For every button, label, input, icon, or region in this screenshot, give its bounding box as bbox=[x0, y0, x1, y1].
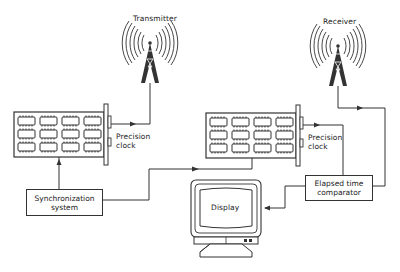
precision-clock-tx-label-line1: Precision bbox=[116, 132, 150, 141]
transmitter-label: Transmitter bbox=[133, 14, 177, 23]
elapsed-time-comparator-box: Elapsed time comparator bbox=[305, 175, 373, 201]
display-monitor-icon bbox=[191, 180, 261, 257]
edge-receiver-to-comparator bbox=[338, 86, 385, 186]
synchronization-system-box: Synchronization system bbox=[26, 189, 103, 216]
receiver-label: Receiver bbox=[323, 17, 356, 26]
comparator-label-line1: Elapsed time bbox=[315, 179, 364, 188]
sync-label-line2: system bbox=[34, 203, 94, 212]
precision-clock-tx-label: Precision clock bbox=[116, 132, 150, 150]
precision-clock-tx-label-line2: clock bbox=[116, 141, 150, 150]
precision-clock-rx-label-line1: Precision bbox=[308, 133, 342, 142]
precision-clock-rx-icon bbox=[206, 105, 303, 166]
edge-comparator-to-display bbox=[264, 186, 305, 211]
precision-clock-rx-label: Precision clock bbox=[308, 133, 342, 151]
edge-sync-to-clock-tx bbox=[57, 157, 62, 189]
transmitter-tower-icon bbox=[122, 21, 178, 83]
display-label: Display bbox=[211, 203, 239, 212]
receiver-tower-icon bbox=[310, 24, 366, 86]
precision-clock-tx-icon bbox=[14, 104, 111, 165]
sync-label-line1: Synchronization bbox=[34, 194, 94, 203]
comparator-label-line2: comparator bbox=[315, 188, 364, 197]
edge-clock-to-transmitter bbox=[111, 83, 150, 127]
precision-clock-rx-label-line2: clock bbox=[308, 142, 342, 151]
diagram-canvas: Transmitter Receiver Precision clock Pre… bbox=[0, 0, 400, 272]
